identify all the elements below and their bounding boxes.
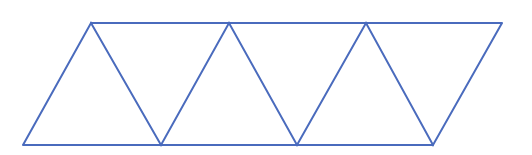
triangle-strip-diagram (0, 0, 532, 155)
zigzag-diagonals (23, 23, 502, 145)
